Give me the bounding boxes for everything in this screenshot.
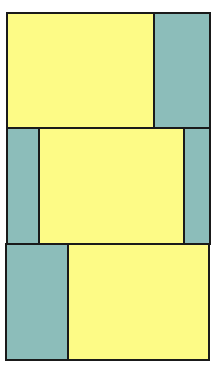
teal-region — [7, 245, 67, 359]
yellow-region — [67, 245, 208, 359]
yellow-region — [38, 129, 183, 243]
teal-region — [183, 129, 209, 243]
teal-region — [153, 14, 209, 127]
panel-3 — [5, 243, 210, 361]
panel-1 — [6, 12, 211, 129]
panel-2 — [6, 127, 211, 245]
yellow-region — [8, 14, 153, 127]
teal-region — [8, 129, 38, 243]
